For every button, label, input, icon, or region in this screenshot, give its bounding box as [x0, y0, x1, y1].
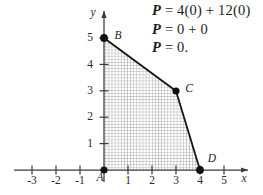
equation-line-1-variable: P [152, 2, 161, 18]
y-tick-label-1: 1 [80, 137, 100, 149]
x-tick-label-1: 1 [118, 174, 138, 186]
equation-line-2: P = 0 + 0 [152, 20, 263, 39]
equation-line-1: P = 4(0) + 12(0) [152, 1, 263, 20]
x-tick-label-4: 4 [190, 174, 210, 186]
graph-figure: P = 4(0) + 12(0) P = 0 + 0 P = 0. -3 -2 … [0, 0, 263, 195]
vertex-label-b: B [110, 29, 126, 41]
vertex-point-c [172, 87, 179, 94]
equation-line-1-expression: = 4(0) + 12(0) [161, 2, 250, 18]
vertex-label-c: C [181, 82, 197, 94]
y-tick-label-4: 4 [80, 58, 100, 70]
vertex-label-d: D [204, 152, 220, 164]
x-tick-label-5: 5 [214, 174, 234, 186]
y-axis-label: y [86, 6, 100, 18]
equation-line-3-variable: P [152, 39, 161, 55]
equation-line-2-variable: P [152, 21, 161, 37]
x-tick-label-2: 2 [142, 174, 162, 186]
x-tick-label-3: 3 [166, 174, 186, 186]
y-tick-label-2: 2 [80, 110, 100, 122]
x-tick-label--3: -3 [22, 174, 42, 186]
x-axis-label: x [237, 172, 251, 184]
vertex-point-b [100, 34, 108, 42]
x-tick-label--1: -1 [70, 174, 90, 186]
equation-line-3-expression: = 0. [161, 39, 188, 55]
equation-line-3: P = 0. [152, 38, 263, 57]
y-tick-label-3: 3 [80, 84, 100, 96]
x-tick-label--2: -2 [46, 174, 66, 186]
vertex-point-d [196, 166, 204, 174]
vertex-label-a: A [92, 171, 108, 183]
y-tick-label-5: 5 [80, 31, 100, 43]
feasible-region-fill [104, 38, 200, 170]
objective-function-annotation: P = 4(0) + 12(0) P = 0 + 0 P = 0. [152, 1, 263, 57]
equation-line-2-expression: = 0 + 0 [161, 21, 208, 37]
